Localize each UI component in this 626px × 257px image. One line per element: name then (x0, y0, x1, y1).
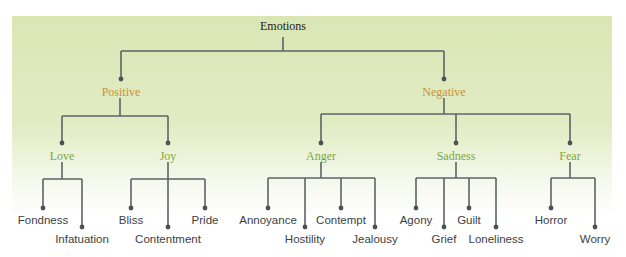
emotion-sadness: Sadness (437, 149, 476, 164)
root-node-label: Emotions (260, 19, 306, 34)
emotion-love: Love (50, 149, 75, 164)
leaf-fondness: Fondness (18, 214, 69, 226)
leaf-pride: Pride (192, 214, 219, 226)
emotion-anger: Anger (306, 149, 336, 164)
leaf-worry: Worry (580, 233, 610, 245)
leaf-infatuation: Infatuation (55, 233, 109, 245)
leaf-grief: Grief (432, 233, 457, 245)
leaf-agony: Agony (400, 214, 433, 226)
leaf-loneliness: Loneliness (469, 233, 524, 245)
tree-connectors (0, 0, 626, 257)
leaf-annoyance: Annoyance (239, 214, 297, 226)
leaf-contempt: Contempt (316, 214, 366, 226)
leaf-bliss: Bliss (119, 214, 143, 226)
emotion-joy: Joy (160, 149, 177, 164)
emotion-fear: Fear (559, 149, 580, 164)
leaf-guilt: Guilt (457, 214, 481, 226)
leaf-hostility: Hostility (285, 233, 325, 245)
category-negative: Negative (422, 85, 465, 100)
leaf-horror: Horror (535, 214, 568, 226)
category-positive: Positive (102, 85, 141, 100)
leaf-jealousy: Jealousy (352, 233, 397, 245)
leaf-contentment: Contentment (135, 233, 201, 245)
